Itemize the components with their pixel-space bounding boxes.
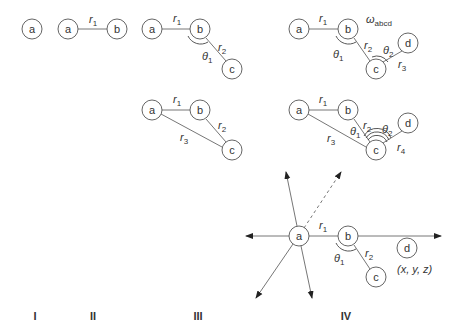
svg-text:b: b <box>197 104 203 116</box>
label-r1: r1 <box>173 12 182 27</box>
atom-c: c <box>222 59 242 79</box>
svg-text:c: c <box>373 63 379 75</box>
atom-b: b <box>338 100 358 120</box>
label-r1: r1 <box>319 12 328 27</box>
distance-r3 <box>161 114 222 147</box>
svg-text:c: c <box>373 271 379 283</box>
label-r1: r1 <box>173 93 182 108</box>
label-theta2: θ2 <box>383 44 394 59</box>
atom-d: d <box>398 33 418 53</box>
atom-b: b <box>338 226 358 246</box>
label-r3: r3 <box>180 131 189 146</box>
svg-text:c: c <box>229 144 235 156</box>
panel-II: a b r1 <box>58 13 127 39</box>
svg-text:b: b <box>345 104 351 116</box>
column-label-IV: IV <box>341 310 352 322</box>
svg-text:c: c <box>373 144 379 156</box>
axis-arrow-up <box>286 172 297 226</box>
svg-text:d: d <box>405 37 411 49</box>
axis-arrow-down <box>301 246 312 298</box>
label-r1: r1 <box>89 13 98 28</box>
axis-arrow-down-left <box>256 244 293 298</box>
label-r1: r1 <box>319 93 328 108</box>
label-omega-abcd: ωabcd <box>366 13 392 28</box>
atom-a: a <box>142 100 162 120</box>
atom-a: a <box>142 19 162 39</box>
atom-c: c <box>366 267 386 287</box>
label-theta2: θ2 <box>382 123 393 138</box>
label-r3: r3 <box>398 58 407 73</box>
label-r2: r2 <box>363 119 372 134</box>
panel-IV-mid: a b c d r1 r2 r3 θ1 θ2 r4 <box>289 93 418 160</box>
panel-I: a <box>22 19 42 39</box>
svg-text:c: c <box>229 63 235 75</box>
atom-c: c <box>366 140 386 160</box>
column-label-I: I <box>33 310 36 322</box>
label-r2: r2 <box>365 247 374 262</box>
panel-IV-top: a b c d r1 ωabcd r2 θ1 θ2 r3 <box>289 12 418 79</box>
column-label-II: II <box>90 310 96 322</box>
svg-text:b: b <box>345 23 351 35</box>
column-label-III: III <box>193 310 202 322</box>
atom-b: b <box>190 100 210 120</box>
atom-a: a <box>289 100 309 120</box>
label-coordinates: (x, y, z) <box>397 263 433 275</box>
panel-IV-bottom: a b c d r1 r2 θ1 (x, y, z) <box>246 172 441 298</box>
svg-text:a: a <box>65 23 72 35</box>
atom-d: d <box>398 113 418 133</box>
svg-text:a: a <box>149 104 156 116</box>
svg-text:b: b <box>114 23 120 35</box>
label-r2: r2 <box>364 39 373 54</box>
molecular-coordinates-diagram: a a b r1 a b c r1 r2 θ1 <box>0 0 458 336</box>
atom-b: b <box>107 19 127 39</box>
label-theta1: θ1 <box>333 48 344 63</box>
svg-text:a: a <box>29 23 36 35</box>
atom-a: a <box>289 226 309 246</box>
label-theta1: θ1 <box>202 50 213 65</box>
svg-text:a: a <box>296 230 303 242</box>
svg-text:d: d <box>405 117 411 129</box>
label-r2: r2 <box>218 119 227 134</box>
svg-text:b: b <box>197 23 203 35</box>
svg-text:d: d <box>404 242 410 254</box>
atom-b: b <box>190 19 210 39</box>
panel-III-top: a b c r1 r2 θ1 <box>142 12 242 79</box>
atom-d: d <box>397 238 417 258</box>
label-theta1: θ1 <box>334 252 345 267</box>
atom-c: c <box>366 59 386 79</box>
panel-III-mid: a b c r1 r2 r3 <box>142 93 242 160</box>
svg-text:a: a <box>296 23 303 35</box>
atom-a: a <box>22 19 42 39</box>
svg-text:a: a <box>149 23 156 35</box>
label-r4: r4 <box>397 141 406 156</box>
svg-text:b: b <box>345 230 351 242</box>
atom-c: c <box>222 140 242 160</box>
svg-text:a: a <box>296 104 303 116</box>
label-r1: r1 <box>319 219 328 234</box>
atom-b: b <box>338 19 358 39</box>
label-r3: r3 <box>327 132 336 147</box>
atom-a: a <box>58 19 78 39</box>
atom-a: a <box>289 19 309 39</box>
